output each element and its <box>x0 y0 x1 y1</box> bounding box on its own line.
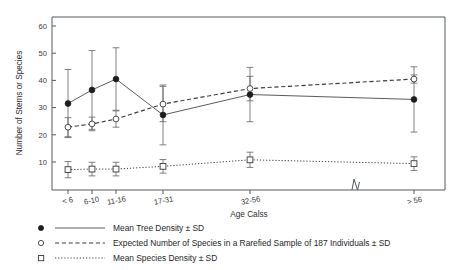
x-tick-label: < 6 <box>61 195 73 206</box>
legend-entry-tree-density[interactable]: Mean Tree Density ± SD <box>38 223 204 233</box>
series-errorbars-group <box>65 48 418 178</box>
data-point-filled-circle <box>89 87 95 93</box>
legend-label: Mean Tree Density ± SD <box>113 223 204 233</box>
data-point-filled-circle <box>113 76 119 82</box>
legend-label: Mean Species Density ± SD <box>113 253 217 263</box>
data-point-open-square <box>411 161 417 167</box>
x-axis-tick-labels: < 6 6-10 11-16 17-31 32-56 > 56 <box>61 194 422 207</box>
legend-entry-expected-species[interactable]: Expected Number of Species in a Rarefied… <box>38 238 390 248</box>
data-point-open-square <box>160 163 166 169</box>
x-tick-label: 11-16 <box>106 194 126 206</box>
data-point-open-circle <box>160 101 166 107</box>
y-tick-label: 20 <box>39 131 47 140</box>
y-tick-label: 50 <box>39 49 47 58</box>
x-tick-label: > 56 <box>406 195 422 207</box>
series-line <box>68 79 414 127</box>
open-square-icon <box>39 256 44 261</box>
x-tick-label: 17-31 <box>153 194 174 207</box>
data-point-filled-circle <box>160 112 166 118</box>
data-point-open-square <box>65 167 71 173</box>
plot-frame <box>52 17 445 190</box>
y-tick-label: 10 <box>39 158 47 167</box>
y-tick-label: 30 <box>39 103 47 112</box>
filled-circle-icon <box>38 225 43 230</box>
data-point-filled-circle <box>65 101 71 107</box>
series-line <box>68 160 414 170</box>
chart-figure: 60 50 40 30 20 10 Number of Stems or Spe… <box>0 0 466 270</box>
y-axis-ticks <box>52 26 56 162</box>
data-point-filled-circle <box>247 92 253 98</box>
y-tick-label: 60 <box>39 22 47 31</box>
x-axis-title: Age Calss <box>230 210 267 219</box>
data-point-open-circle <box>65 124 71 130</box>
data-point-open-square <box>247 157 253 163</box>
x-axis-ticks <box>68 190 414 194</box>
legend-entry-species-density[interactable]: Mean Species Density ± SD <box>39 253 218 263</box>
series-lines-group <box>68 79 414 170</box>
data-point-open-square <box>89 166 95 172</box>
x-tick-label: 32-56 <box>240 194 261 207</box>
chart-legend: Mean Tree Density ± SD Expected Number o… <box>38 223 390 263</box>
data-point-open-circle <box>113 116 119 122</box>
x-axis-break-icon <box>352 179 360 190</box>
open-circle-icon <box>38 240 43 245</box>
data-point-open-square <box>113 166 119 172</box>
legend-label: Expected Number of Species in a Rarefied… <box>113 238 390 248</box>
x-tick-label: 6-10 <box>83 195 100 207</box>
series-line <box>68 79 414 115</box>
data-point-open-circle <box>247 86 253 92</box>
y-axis-tick-labels: 60 50 40 30 20 10 <box>39 22 47 167</box>
data-point-open-circle <box>89 121 95 127</box>
data-point-filled-circle <box>411 97 417 103</box>
y-tick-label: 40 <box>39 76 47 85</box>
data-point-open-circle <box>411 76 417 82</box>
chart-canvas: 60 50 40 30 20 10 Number of Stems or Spe… <box>0 0 466 270</box>
y-axis-title: Number of Stems or Species <box>15 51 24 156</box>
